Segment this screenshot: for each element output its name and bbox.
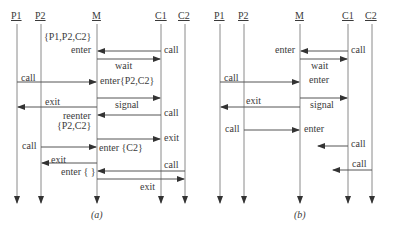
lifeline-header-p1: P1: [214, 11, 225, 21]
label-enter: enter: [71, 45, 91, 55]
label-enter-p2c2: enter{P2,C2}: [100, 76, 154, 86]
label-call: call: [164, 45, 178, 55]
label-exit: exit: [45, 97, 60, 107]
label-wait: wait: [115, 61, 132, 71]
label-call: call: [225, 124, 239, 134]
label-call: call: [164, 160, 178, 170]
lifelines-b: [220, 24, 372, 203]
label-call: call: [21, 73, 35, 83]
lifeline-header-p2: P2: [35, 11, 46, 21]
label-signal: signal: [310, 100, 334, 110]
label-set-p1p2c2: {P1,P2,C2}: [44, 32, 91, 42]
messages-a: [17, 51, 185, 179]
label-call: call: [351, 45, 365, 55]
label-exit: exit: [51, 155, 66, 165]
label-signal: signal: [115, 100, 139, 110]
label-call: call: [351, 139, 365, 149]
label-enter: enter: [309, 75, 329, 85]
label-enter-c2: enter {C2}: [99, 143, 143, 153]
lifeline-header-c1: C1: [342, 11, 354, 21]
label-wait: wait: [311, 61, 328, 71]
label-enter: enter: [304, 124, 324, 134]
label-call: call: [224, 73, 238, 83]
lifeline-header-c2: C2: [365, 11, 377, 21]
caption-b: (b): [294, 209, 306, 220]
lifeline-header-m: M: [92, 11, 101, 21]
label-exit: exit: [246, 96, 261, 106]
lifeline-header-m: M: [295, 11, 304, 21]
lifeline-header-p2: P2: [238, 11, 249, 21]
label-enter-empty: enter { }: [61, 167, 96, 177]
messages-b: [220, 51, 372, 170]
label-exit: exit: [164, 133, 179, 143]
label-exit: exit: [140, 182, 155, 192]
caption-a: (a): [91, 209, 103, 220]
label-call: call: [22, 141, 36, 151]
label-call: call: [352, 159, 366, 169]
lifeline-header-p1: P1: [11, 11, 22, 21]
lifeline-header-c2: C2: [178, 11, 190, 21]
label-enter: enter: [275, 45, 295, 55]
lifeline-header-c1: C1: [155, 11, 167, 21]
label-set-p2c2: {P2,C2}: [57, 121, 91, 131]
label-call: call: [164, 108, 178, 118]
